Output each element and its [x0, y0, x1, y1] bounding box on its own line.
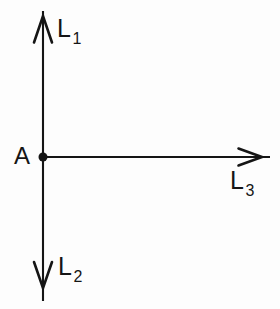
- ray-l1-label: L1: [57, 16, 80, 41]
- ray-l1-base-text: L: [57, 14, 71, 42]
- ray-l3-label: L3: [230, 168, 253, 193]
- ray-l2-subscript-text: 2: [73, 268, 82, 285]
- diagram-canvas: A L1 L2 L3: [0, 0, 280, 309]
- point-a-dot: [39, 153, 48, 162]
- rays-figure: [0, 0, 280, 309]
- ray-l2-base-text: L: [58, 252, 72, 280]
- ray-l2-label: L2: [58, 254, 81, 279]
- point-a-label: A: [14, 144, 31, 168]
- ray-l1-subscript-text: 1: [72, 30, 81, 47]
- ray-l3-base-text: L: [230, 166, 244, 194]
- ray-l3-subscript-text: 3: [245, 182, 254, 199]
- point-a-text: A: [14, 142, 31, 169]
